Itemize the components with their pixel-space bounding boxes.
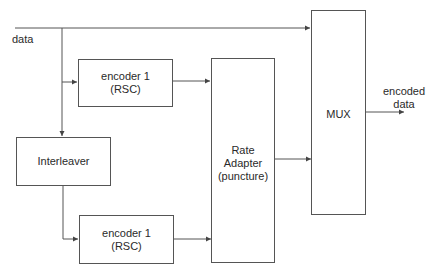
input-data-label: data bbox=[12, 33, 33, 46]
output-label-line1: encoded bbox=[382, 85, 426, 98]
mux-label: MUX bbox=[326, 108, 350, 121]
interleaver-label: Interleaver bbox=[38, 155, 90, 168]
encoder-top-block: encoder 1 (RSC) bbox=[78, 59, 173, 107]
output-label-line2: data bbox=[382, 98, 426, 111]
encoder-bottom-block: encoder 1 (RSC) bbox=[79, 215, 174, 264]
rate-adapter-label-1: Rate bbox=[231, 144, 254, 157]
mux-block: MUX bbox=[311, 10, 366, 215]
encoder-bottom-sublabel: (RSC) bbox=[111, 240, 142, 253]
encoder-bottom-label: encoder 1 bbox=[102, 227, 151, 240]
rate-adapter-label-2: Adapter bbox=[224, 157, 263, 170]
encoder-top-sublabel: (RSC) bbox=[110, 83, 141, 96]
output-label: encoded data bbox=[382, 85, 426, 111]
rate-adapter-label-3: (puncture) bbox=[218, 170, 268, 183]
rate-adapter-block: Rate Adapter (puncture) bbox=[211, 58, 275, 263]
encoder-top-label: encoder 1 bbox=[101, 70, 150, 83]
interleaver-block: Interleaver bbox=[16, 137, 111, 186]
